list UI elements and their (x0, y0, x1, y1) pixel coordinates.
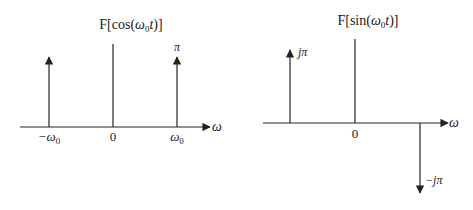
cos-axis-label: ω (212, 119, 222, 134)
cos-impulse-weight-label: π (174, 40, 181, 54)
cos-tick-pos-omega0: ω0 (170, 129, 184, 146)
cos-tick-zero: 0 (110, 129, 117, 144)
cos-spectrum-diagram: F[cos(ω0t)] ω π −ω0 0 ω0 (20, 17, 222, 146)
sin-title: F[sin(ω0t)] (337, 13, 398, 30)
sin-impulse-down-label: −jπ (425, 173, 443, 187)
cos-title: F[cos(ω0t)] (99, 17, 162, 34)
sin-tick-zero: 0 (352, 126, 359, 141)
sin-impulse-up-label: jπ (296, 45, 308, 59)
sin-axis-label: ω (449, 115, 459, 130)
cos-tick-neg-omega0: −ω0 (38, 129, 61, 146)
sin-spectrum-diagram: F[sin(ω0t)] ω jπ −jπ 0 (263, 13, 459, 193)
fourier-transform-diagrams: F[cos(ω0t)] ω π −ω0 0 ω0 F[sin(ω0t)] ω j (0, 0, 473, 210)
